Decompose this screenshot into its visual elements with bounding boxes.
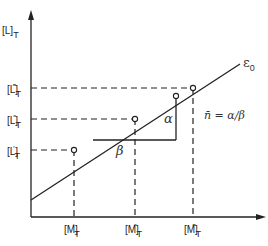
tick-sub: T <box>16 89 22 99</box>
epsilon-text: ε <box>243 55 250 70</box>
x-tick-m-triple: [M]‴T <box>184 223 201 239</box>
diagram-canvas: [L]T [L]‴T [L]″T [L]′T [M]′T [M]″T [M]‴T… <box>0 0 268 246</box>
diagram-graphics <box>0 0 268 246</box>
alpha-text: α <box>164 111 173 126</box>
point-2-icon <box>132 116 137 121</box>
y-axis-label: [L]T <box>2 26 19 40</box>
epsilon-label: ε0 <box>243 56 255 73</box>
tick-sub: T <box>195 229 201 239</box>
tick-sub: T <box>74 229 80 239</box>
y-axis-label-text: [L] <box>2 25 13 36</box>
tick-sub: T <box>16 120 22 130</box>
y-tick-l-double: [L]″T <box>7 114 21 130</box>
alpha-label: α <box>164 112 173 125</box>
beta-text: β <box>116 143 124 158</box>
x-tick-m-single: [M]′T <box>64 223 80 239</box>
formula-text: n̄ = α/β <box>204 109 245 122</box>
formula-label: n̄ = α/β <box>204 110 245 121</box>
y-axis-arrow-icon <box>28 10 34 20</box>
x-axis-arrow-icon <box>256 214 266 220</box>
point-1-icon <box>71 147 76 152</box>
tick-sub: T <box>14 151 20 161</box>
tick-sub: T <box>136 229 142 239</box>
y-tick-l-triple: [L]‴T <box>7 83 21 99</box>
point-3-icon <box>190 85 195 90</box>
y-tick-l-single: [L]′T <box>7 145 20 161</box>
beta-label: β <box>116 144 124 157</box>
y-axis-label-sub: T <box>13 30 19 40</box>
x-tick-m-double: [M]″T <box>125 223 142 239</box>
epsilon-sub: 0 <box>250 63 255 73</box>
point-alpha-icon <box>173 93 178 98</box>
